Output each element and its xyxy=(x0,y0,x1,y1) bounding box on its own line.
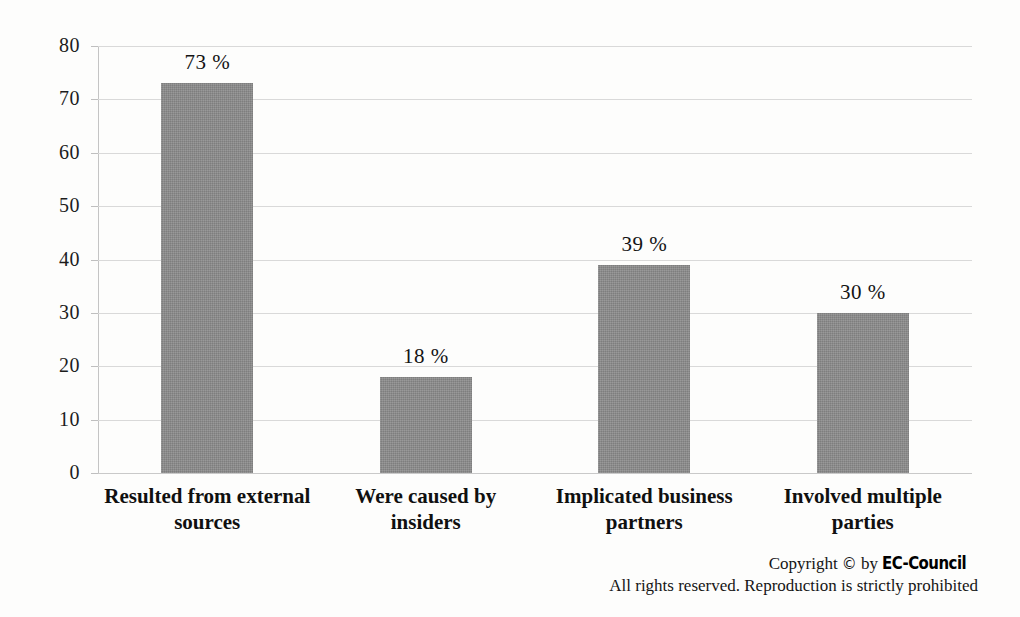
bar-value-label: 39 % xyxy=(584,234,704,255)
bar-chart: 01020304050607080 73 %18 %39 %30 % Resul… xyxy=(0,0,1020,552)
category-label-line: insiders xyxy=(317,509,536,535)
y-tick-label: 50 xyxy=(34,195,80,215)
category-label-line: Were caused by xyxy=(317,483,536,509)
y-tick-label: 10 xyxy=(34,409,80,429)
bar xyxy=(817,313,909,473)
y-tick-label: 30 xyxy=(34,302,80,322)
bar-value-label: 18 % xyxy=(366,346,486,367)
copyright-line: Copyright © by EC-Council xyxy=(418,552,978,575)
y-tick-mark xyxy=(91,313,98,314)
plot-area xyxy=(98,46,972,473)
y-tick-label: 60 xyxy=(34,142,80,162)
bar-value-label: 73 % xyxy=(147,52,267,73)
copyright-prefix: Copyright xyxy=(769,554,838,573)
bar xyxy=(380,377,472,473)
category-label: Implicated businesspartners xyxy=(535,483,754,535)
rights-line: All rights reserved. Reproduction is str… xyxy=(418,575,978,597)
gridline xyxy=(98,473,972,474)
y-tick-label: 40 xyxy=(34,249,80,269)
y-tick-label: 20 xyxy=(34,355,80,375)
y-tick-mark xyxy=(91,206,98,207)
y-tick-label: 0 xyxy=(34,462,80,482)
bar xyxy=(598,265,690,473)
gridline xyxy=(98,46,972,47)
bar-value-label: 30 % xyxy=(803,282,923,303)
category-label-line: Implicated business xyxy=(535,483,754,509)
category-label-line: sources xyxy=(98,509,317,535)
category-label-line: Involved multiple xyxy=(754,483,973,509)
category-label-line: partners xyxy=(535,509,754,535)
category-label-line: parties xyxy=(754,509,973,535)
copyright-symbol-icon: © xyxy=(842,555,857,573)
copyright-by: by xyxy=(861,554,878,573)
category-label: Involved multipleparties xyxy=(754,483,973,535)
category-label: Were caused byinsiders xyxy=(317,483,536,535)
y-tick-mark xyxy=(91,366,98,367)
y-tick-mark xyxy=(91,46,98,47)
y-tick-mark xyxy=(91,153,98,154)
y-tick-mark xyxy=(91,260,98,261)
category-label-line: Resulted from external xyxy=(98,483,317,509)
y-tick-label: 70 xyxy=(34,88,80,108)
chart-page: 01020304050607080 73 %18 %39 %30 % Resul… xyxy=(0,0,1020,617)
bar xyxy=(161,83,253,473)
y-tick-label: 80 xyxy=(34,35,80,55)
footer: Copyright © by EC-Council All rights res… xyxy=(418,552,978,597)
category-label: Resulted from externalsources xyxy=(98,483,317,535)
ec-council-logo: EC-Council xyxy=(882,552,966,574)
y-tick-mark xyxy=(91,99,98,100)
y-tick-mark xyxy=(91,473,98,474)
y-tick-mark xyxy=(91,420,98,421)
